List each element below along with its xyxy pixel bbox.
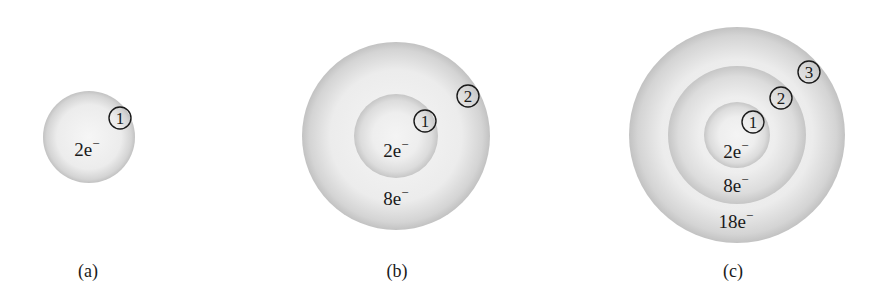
shell-number: 1 (116, 109, 125, 128)
shell-number: 2 (777, 89, 786, 108)
shell-region-1 (354, 94, 438, 178)
electron-shell-diagram: 12e−(a)12e−28e−(b)12e−28e−318e−(c) (0, 0, 880, 307)
panel-b: 12e−28e−(b) (302, 42, 490, 282)
panel-c: 12e−28e−318e−(c) (629, 27, 845, 282)
shell-number: 1 (421, 112, 430, 131)
shell-number: 3 (805, 63, 814, 82)
panel-caption: (a) (78, 261, 98, 282)
shell-number: 1 (749, 113, 758, 132)
panel-a: 12e−(a) (43, 91, 135, 282)
shell-number: 2 (464, 87, 473, 106)
panel-caption: (b) (387, 261, 408, 282)
panel-caption: (c) (723, 261, 743, 282)
shell-region-1 (43, 91, 135, 183)
